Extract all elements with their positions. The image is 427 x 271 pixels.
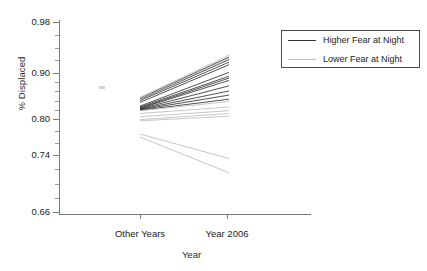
series-line — [140, 111, 229, 117]
legend-item-higher-fear: Higher Fear at Night — [282, 31, 419, 50]
stray-mark — [99, 86, 105, 89]
series-line — [140, 102, 229, 111]
legend-label-higher-fear: Higher Fear at Night — [323, 34, 404, 47]
legend-label-lower-fear: Lower Fear at Night — [323, 53, 402, 66]
series-line — [140, 65, 229, 103]
interaction-plot-figure: % Displaced 0.980.900.800.740.66 Other Y… — [0, 0, 427, 271]
legend-swatch-lower-fear — [288, 59, 316, 60]
legend-swatch-higher-fear — [288, 40, 316, 41]
series-line — [140, 55, 229, 97]
legend: Higher Fear at Night Lower Fear at Night — [281, 30, 420, 68]
x-axis-title-wrap: Year — [0, 249, 427, 260]
x-axis-title: Year — [182, 249, 201, 260]
legend-item-lower-fear: Lower Fear at Night — [282, 50, 419, 69]
